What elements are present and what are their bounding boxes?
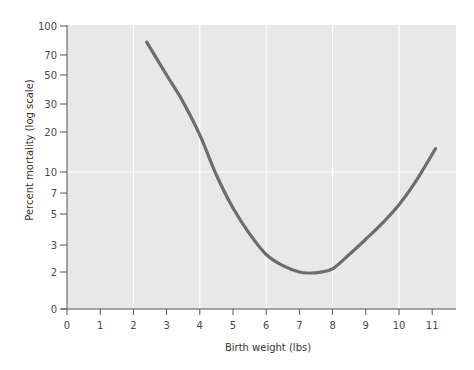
x-tick-label: 9 [363, 320, 369, 331]
x-tick-label: 3 [163, 320, 169, 331]
x-tick-label: 0 [64, 320, 70, 331]
y-tick-label: 20 [44, 127, 57, 138]
x-tick-label: 6 [263, 320, 269, 331]
x-tick-label: 8 [329, 320, 335, 331]
x-tick-label: 7 [296, 320, 302, 331]
y-axis-title: Percent mortality (log scale) [24, 79, 35, 220]
x-tick-label: 10 [393, 320, 406, 331]
x-tick-label: 4 [197, 320, 203, 331]
x-tick-label: 11 [426, 320, 439, 331]
y-tick-label: 100 [38, 21, 57, 32]
y-tick-label: 5 [51, 209, 57, 220]
x-axis-title: Birth weight (lbs) [225, 342, 311, 353]
x-tick-label: 1 [97, 320, 103, 331]
x-tick-label: 5 [230, 320, 236, 331]
y-tick-label: 7 [51, 188, 57, 199]
y-tick-label: 30 [44, 99, 57, 110]
y-tick-label: 50 [44, 70, 57, 81]
x-tick-label: 2 [130, 320, 136, 331]
y-tick-label: 2 [51, 267, 57, 278]
x-axis-ticks: 01234567891011 [64, 309, 439, 331]
y-tick-label: 70 [44, 50, 57, 61]
mortality-chart: 01234567891011 023571020305070100 Birth … [0, 0, 474, 370]
y-tick-label: 0 [51, 304, 57, 315]
y-tick-label: 3 [51, 240, 57, 251]
y-axis-ticks: 023571020305070100 [38, 21, 67, 315]
plot-background [67, 25, 456, 309]
y-tick-label: 10 [44, 167, 57, 178]
